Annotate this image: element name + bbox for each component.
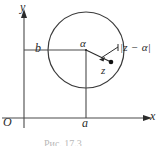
axis-label-x: x: [150, 110, 155, 122]
y-axis: [21, 9, 27, 128]
figure-container: y x O b a α z |z − α| Рис. 17.3: [0, 0, 161, 146]
radius-segment: [86, 50, 111, 62]
figure-caption: Рис. 17.3: [44, 138, 154, 146]
axis-label-y: y: [20, 1, 25, 13]
modulus-leader-line: [101, 47, 118, 58]
point-label-z: z: [101, 65, 105, 76]
modulus-leader: [99, 44, 118, 62]
annotation-label-modulus: |z − α|: [120, 42, 151, 53]
point-label-alpha: α: [80, 38, 86, 49]
tick-label-b: b: [35, 42, 41, 54]
point-alpha-marker: [85, 49, 87, 51]
point-z-marker: [109, 60, 114, 65]
axis-label-origin: O: [3, 116, 12, 128]
tick-label-a: a: [82, 117, 88, 129]
diagram-canvas: [0, 0, 161, 146]
